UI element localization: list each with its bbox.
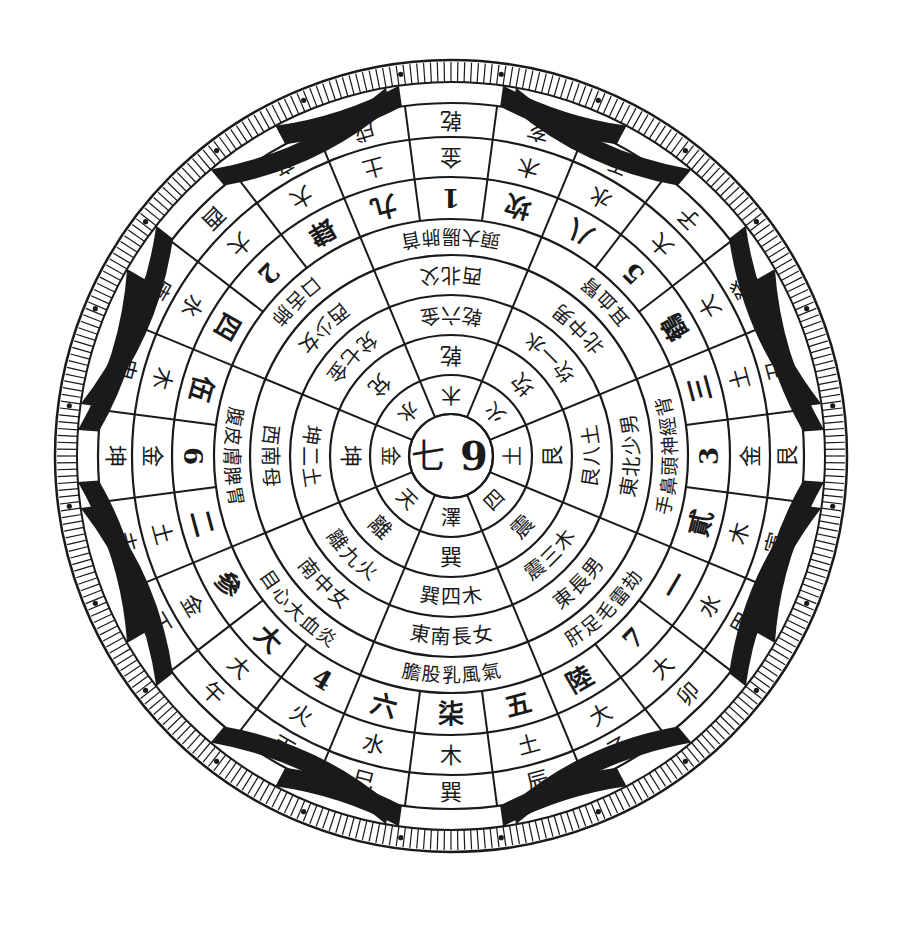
family-ring-label: 少 <box>619 435 644 456</box>
family-ring-label: 北 <box>441 263 461 287</box>
body-ring-label: 股 <box>421 662 442 686</box>
body-ring-label: 膚 <box>221 447 243 466</box>
center-ring-label: 澤 <box>441 506 461 530</box>
trigram-label: 艮 <box>540 445 565 467</box>
family-ring-label: 西 <box>258 424 284 447</box>
body-ring-label: 鼻 <box>656 475 680 497</box>
body-ring-label: 氣 <box>479 659 502 684</box>
mountain-label: 乾 <box>440 108 462 133</box>
body-ring-label: 乳 <box>442 664 461 686</box>
body-ring-label: 腹 <box>223 405 248 428</box>
mountain-element: 金 <box>440 145 462 170</box>
direction-ring-label: 金 <box>418 303 441 330</box>
family-ring-label: 女 <box>470 621 494 648</box>
center-ring-label: 金 <box>378 446 402 466</box>
body-ring-label: 胃 <box>223 484 248 507</box>
body-ring-label: 首 <box>400 228 423 253</box>
family-ring-label: 男 <box>616 413 643 437</box>
direction-ring-label: 二 <box>298 446 322 466</box>
mountain-element: 木 <box>440 743 462 768</box>
direction-ring-label: 四 <box>441 585 461 609</box>
direction-ring-label: 土 <box>298 465 325 488</box>
mountain-number: 1 <box>442 183 460 213</box>
mountain-number: 柒 <box>438 699 464 729</box>
direction-ring-label: 六 <box>441 303 461 327</box>
mountain-element: 金 <box>738 445 763 467</box>
body-ring-label: 腸 <box>442 226 461 248</box>
mountain-label: 巽 <box>440 780 462 805</box>
mountain-number: 6 <box>178 447 208 465</box>
mountain-element: 金 <box>140 445 165 467</box>
center-label-right: 9 <box>460 432 488 479</box>
luopan-compass: 巽巳丙午丁未坤申庚酉辛戌乾亥壬子癸丑艮寅甲卯乙辰木水火大金土金木水大大土金木水大… <box>0 0 901 949</box>
mountain-label: 坤 <box>103 445 128 467</box>
degree-tick-ring <box>55 60 847 852</box>
family-ring-label: 北 <box>619 456 644 477</box>
trigram-label: 坤 <box>338 445 363 467</box>
mountain-label: 艮 <box>775 445 800 467</box>
direction-ring-label: 艮 <box>577 465 604 488</box>
trigram-label: 巽 <box>440 545 462 570</box>
family-ring-label: 母 <box>258 466 284 489</box>
body-ring-label: 風 <box>460 662 481 686</box>
center-label-left: 七 <box>411 436 445 476</box>
family-ring-label: 東 <box>616 475 643 499</box>
direction-ring-label: 土 <box>577 423 604 446</box>
body-ring-label: 經 <box>656 415 680 437</box>
body-ring-label: 膽 <box>400 659 423 684</box>
family-ring-label: 父 <box>419 263 442 289</box>
direction-ring-label: 乾 <box>460 303 483 330</box>
direction-ring-label: 坤 <box>298 423 325 446</box>
body-ring-label: 皮 <box>221 426 245 447</box>
family-ring-label: 長 <box>451 624 472 649</box>
direction-ring-label: 八 <box>580 446 604 466</box>
mountain-number: 3 <box>694 447 724 465</box>
body-ring-label: 頭 <box>658 456 681 476</box>
direction-ring-label: 木 <box>460 582 483 609</box>
body-ring-label: 神 <box>658 436 681 456</box>
family-ring-label: 東 <box>408 621 432 648</box>
body-ring-label: 肺 <box>421 226 442 250</box>
trigram-label: 乾 <box>440 343 462 368</box>
center-ring-label: 木 <box>441 383 461 407</box>
family-ring-label: 南 <box>430 624 451 649</box>
family-ring-label: 南 <box>258 446 282 466</box>
body-ring-label: 頭 <box>479 228 502 253</box>
center-ring-label: 土 <box>501 446 525 466</box>
body-ring-label: 大 <box>460 226 481 250</box>
family-ring-label: 西 <box>461 263 484 289</box>
direction-ring-label: 巽 <box>418 582 441 609</box>
body-ring-label: 脾 <box>221 465 245 486</box>
